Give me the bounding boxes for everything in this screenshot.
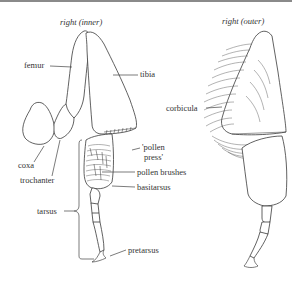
label-tibia: tibia [140,69,155,79]
bee-leg-diagram: right (inner) fe [0,0,292,284]
label-pollen-brushes: pollen brushes [137,167,186,177]
leader-pollen-press [132,148,140,150]
label-tarsus: tarsus [37,206,57,216]
femur-shape [66,31,90,118]
coxa-shape [23,102,55,144]
label-pretarsus: pretarsus [128,245,159,255]
leader-femur [50,66,72,67]
outer-view-title: right (outer) [222,16,264,26]
leader-basitarsus [112,186,135,187]
tibia-shape [86,32,137,134]
leader-trochanter [52,140,60,176]
outer-view: right (outer) [166,16,287,268]
outer-tarsal-segment-3 [250,232,268,258]
label-femur: femur [24,60,44,70]
leader-pretarsus [110,250,126,256]
outer-tibia-shape [221,31,286,135]
leader-corbicula [206,107,222,108]
leader-coxa [34,146,44,162]
tarsal-segment-4 [93,222,104,252]
pretarsus-claw [92,250,106,262]
inner-view: right (inner) fe [18,17,186,262]
outer-tarsal-segment-1 [262,206,272,223]
label-trochanter: trochanter [20,175,55,185]
label-pollen-press-1: 'pollen [142,142,166,152]
outer-basitarsus-shape [242,136,287,206]
label-corbicula: corbicula [166,103,198,113]
label-coxa: coxa [18,160,34,170]
label-basitarsus: basitarsus [137,182,171,192]
inner-view-title: right (inner) [60,17,102,27]
outer-pretarsus-claw [244,256,258,268]
label-pollen-press-2: press' [144,152,163,162]
